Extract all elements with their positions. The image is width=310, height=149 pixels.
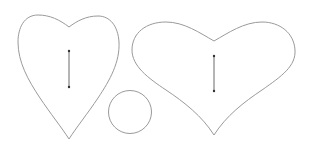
grainline-bottom-dot [213,90,215,92]
grainline-bottom-dot [68,86,70,88]
small-circle [109,91,152,134]
grainline-top-dot [213,55,215,57]
grainline-top-dot [68,50,70,52]
circle-outline [109,91,152,134]
tall-heart [18,15,119,139]
wide-heart [132,22,295,135]
pattern-diagram [0,0,310,149]
